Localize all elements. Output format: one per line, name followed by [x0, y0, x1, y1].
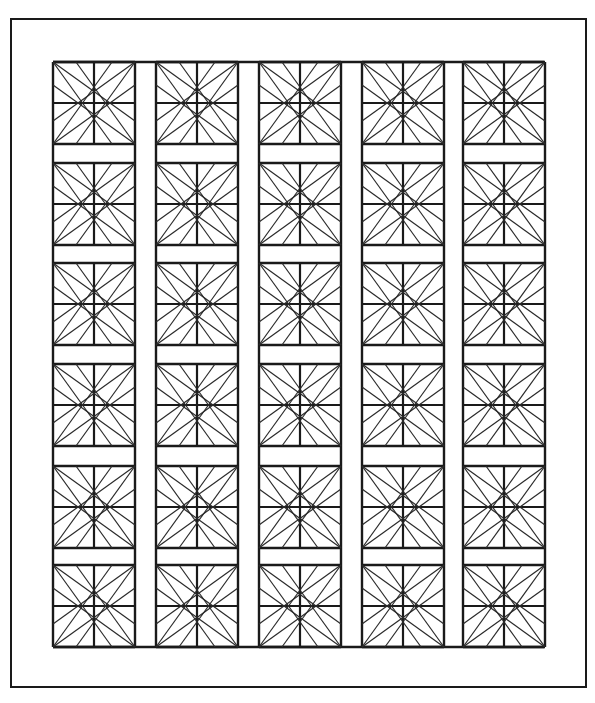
pattern-block [53, 364, 135, 446]
pattern-block [463, 163, 545, 245]
pattern-block [463, 565, 545, 647]
pattern-block [259, 466, 341, 548]
pattern-block [53, 163, 135, 245]
pattern-block [463, 364, 545, 446]
pattern-block [156, 565, 238, 647]
pattern-block [156, 263, 238, 345]
block-grid [53, 62, 545, 647]
pattern-block [259, 163, 341, 245]
pattern-block [156, 163, 238, 245]
column-strips [53, 62, 545, 647]
pattern-block [259, 565, 341, 647]
pattern-block [463, 263, 545, 345]
pattern-block [362, 364, 444, 446]
pattern-block [463, 466, 545, 548]
pattern-block [259, 263, 341, 345]
pattern-block [259, 62, 341, 144]
pattern-block [53, 263, 135, 345]
pattern-block [53, 62, 135, 144]
pattern-block [259, 364, 341, 446]
outer-frame [11, 19, 586, 687]
pattern-canvas [0, 0, 595, 703]
pattern-block [53, 466, 135, 548]
pattern-block [156, 62, 238, 144]
pattern-block [463, 62, 545, 144]
pattern-block [53, 565, 135, 647]
pattern-block [362, 263, 444, 345]
pattern-block [362, 163, 444, 245]
pattern-block [362, 62, 444, 144]
pattern-block [362, 466, 444, 548]
pattern-block [156, 466, 238, 548]
pattern-block [156, 364, 238, 446]
pattern-block [362, 565, 444, 647]
